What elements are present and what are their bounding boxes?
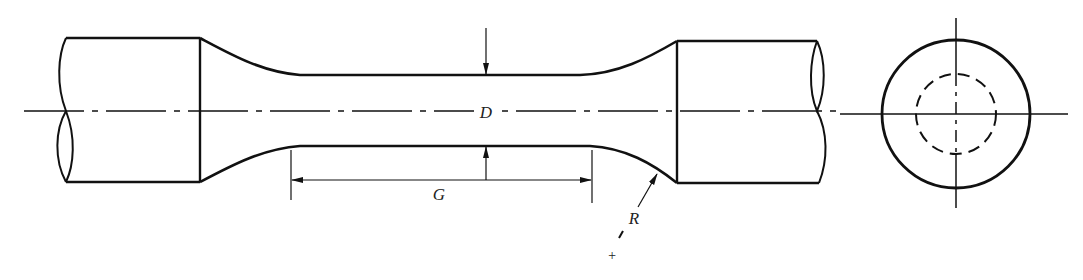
specimen-side-view xyxy=(24,38,840,183)
specimen-end-view xyxy=(840,18,1068,208)
left-grip xyxy=(66,38,200,182)
radius-label: R xyxy=(628,209,640,228)
right-grip xyxy=(677,41,819,183)
tensile-specimen-drawing: D G R + xyxy=(0,0,1083,280)
gauge-length-label: G xyxy=(433,185,445,204)
diameter-label: D xyxy=(479,103,493,122)
radius-center-mark: + xyxy=(607,248,616,263)
lower-profile xyxy=(200,146,677,183)
left-break-line xyxy=(57,38,72,182)
radius-dimension xyxy=(619,174,657,238)
right-break-line xyxy=(811,41,826,183)
upper-profile xyxy=(200,38,677,75)
